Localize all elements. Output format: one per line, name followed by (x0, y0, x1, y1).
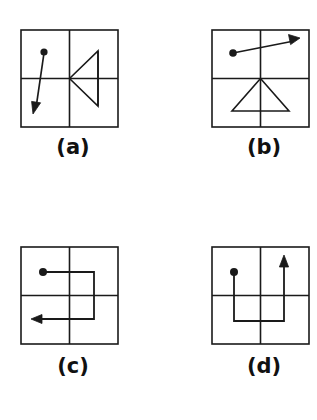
panel-a-arrowhead (32, 101, 41, 114)
panel-d-start-dot (230, 268, 238, 276)
panel-b-figure (203, 22, 317, 132)
panel-c-label: (c) (12, 351, 134, 381)
panel-d-path (234, 267, 284, 321)
panel-d-arrowhead (279, 255, 288, 267)
panel-d-figure (203, 239, 317, 349)
panel-a: (a) (12, 22, 134, 177)
panel-b-arrowhead (289, 35, 301, 45)
panel-c: (c) (12, 239, 134, 394)
panel-d-label: (d) (203, 351, 317, 381)
panel-a-drawing (12, 22, 134, 132)
panel-a-arrow-shaft (36, 53, 44, 108)
panel-b-arrow-shaft (233, 41, 294, 53)
panel-a-start-dot (40, 48, 47, 55)
panel-d: (d) (203, 239, 317, 394)
panel-c-start-dot (39, 268, 47, 276)
panel-a-label: (a) (12, 132, 134, 162)
panel-a-figure (12, 22, 134, 132)
panel-b-start-dot (229, 49, 237, 57)
panel-c-figure (12, 239, 134, 349)
panel-b: (b) (203, 22, 317, 177)
panel-d-drawing (203, 239, 317, 349)
panel-b-label: (b) (203, 132, 317, 162)
panel-c-drawing (12, 239, 134, 349)
panel-c-arrowhead (31, 315, 42, 324)
panel-b-drawing (203, 22, 317, 132)
figure-canvas: (a) (b) (0, 0, 317, 420)
